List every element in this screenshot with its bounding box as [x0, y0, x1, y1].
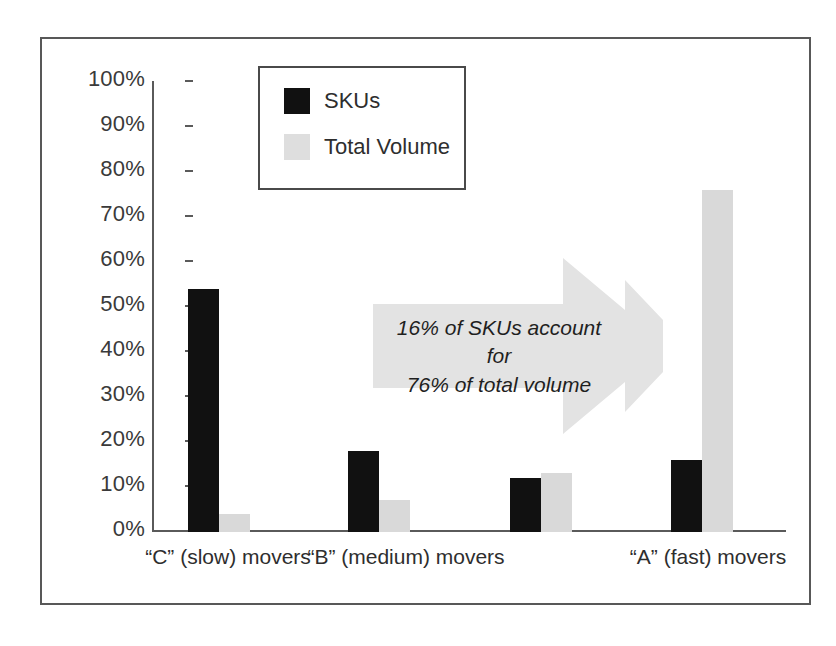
legend-item-total-volume[interactable]: Total Volume	[284, 134, 450, 160]
chart-legend: SKUs Total Volume	[258, 66, 466, 190]
bar-volume-a[interactable]	[702, 190, 733, 532]
legend-label: SKUs	[324, 88, 380, 114]
bar-skus-a[interactable]	[671, 460, 702, 532]
annotation-line-2: 76% of total volume	[385, 371, 613, 399]
gray-square-icon	[284, 134, 310, 160]
legend-label: Total Volume	[324, 134, 450, 160]
x-axis-label-a: “A” (fast) movers	[608, 545, 808, 569]
bar-volume-mid[interactable]	[541, 473, 572, 532]
legend-item-skus[interactable]: SKUs	[284, 88, 380, 114]
bar-skus-mid[interactable]	[510, 478, 541, 532]
annotation-text: 16% of SKUs account for 76% of total vol…	[385, 314, 613, 399]
x-axis-label-b: “B” (medium) movers	[281, 545, 531, 569]
bar-volume-b[interactable]	[379, 500, 410, 532]
annotation-callout: 16% of SKUs account for 76% of total vol…	[373, 258, 663, 434]
black-square-icon	[284, 88, 310, 114]
bar-skus-c[interactable]	[188, 289, 219, 532]
annotation-line-1: 16% of SKUs account for	[385, 314, 613, 371]
chart-figure: 100% 90% 80% 70% 60% 50% 40% 30%	[0, 0, 836, 646]
bar-volume-c[interactable]	[219, 514, 250, 532]
bar-skus-b[interactable]	[348, 451, 379, 532]
